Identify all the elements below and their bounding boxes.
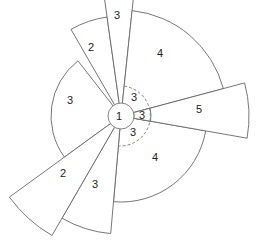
label-left-3: 3 bbox=[67, 94, 73, 106]
label-ring-3-lower: 3 bbox=[130, 126, 136, 138]
label-center-1: 1 bbox=[116, 110, 122, 122]
label-right-5: 5 bbox=[196, 103, 202, 115]
radial-sector-diagram: 3 4 5 4 3 2 3 2 1 3 3 3 bbox=[0, 0, 256, 241]
label-ring-3-middle: 3 bbox=[139, 109, 145, 121]
label-upper-right-4: 4 bbox=[157, 47, 163, 59]
label-top-3: 3 bbox=[114, 9, 120, 21]
label-lower-left-2: 2 bbox=[60, 167, 66, 179]
label-ring-3-upper: 3 bbox=[131, 91, 137, 103]
label-bottom-3: 3 bbox=[92, 178, 98, 190]
label-upper-left-2: 2 bbox=[88, 41, 94, 53]
label-lower-right-4: 4 bbox=[152, 151, 158, 163]
